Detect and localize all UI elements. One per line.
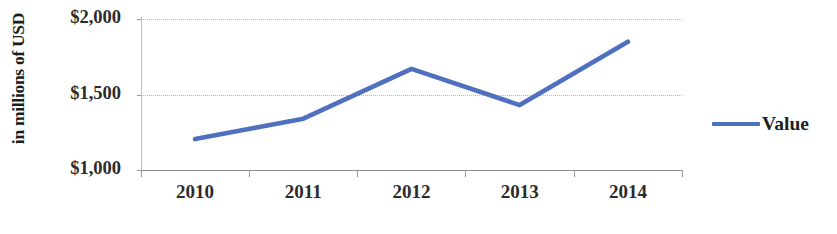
- plot-area: [141, 19, 682, 170]
- y-axis-tick-label-1500: $1,500: [26, 83, 121, 104]
- x-axis-line: [141, 170, 682, 171]
- x-axis-tick-mark-3: [465, 170, 466, 177]
- x-axis-tick-mark-2: [357, 170, 358, 177]
- x-axis-tick-label-2013: 2013: [466, 181, 574, 213]
- legend-label-value: Value: [762, 113, 809, 135]
- series-value-polyline: [195, 42, 628, 139]
- x-axis-tick-mark-1: [249, 170, 250, 177]
- x-axis-tick-label-4: 2014: [574, 181, 682, 213]
- legend-line-swatch-icon: [712, 122, 760, 126]
- x-axis-tick-label-2011: 2011: [249, 181, 357, 213]
- x-axis-tick-mark-0: [141, 170, 142, 177]
- x-axis-tick-mark-5: [682, 170, 683, 177]
- series-value-line: [141, 19, 682, 170]
- x-axis-tick-label-2012: 2012: [357, 181, 465, 213]
- y-axis-tick-label-2000: $2,000: [26, 7, 121, 28]
- x-axis-labels: 2010 2011 2012 2013 2014: [141, 181, 682, 213]
- y-axis-tick-label-1000: $1,000: [26, 158, 121, 179]
- chart-legend: Value: [712, 113, 809, 135]
- x-axis-tick-mark-4: [574, 170, 575, 177]
- line-chart: in millions of USD $2,000 $1,500 $1,000 …: [0, 0, 837, 234]
- x-axis-tick-label-2010: 2010: [141, 181, 249, 213]
